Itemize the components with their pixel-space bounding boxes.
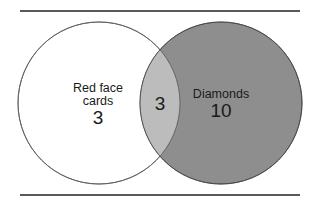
red-face-label-line2: cards (83, 95, 114, 108)
diamonds-only-count: 10 (210, 101, 231, 120)
intersection-count: 3 (155, 94, 166, 113)
red-face-label-line1: Red face (73, 82, 123, 95)
red-face-only-count: 3 (93, 108, 104, 127)
diamonds-label: Diamonds (193, 88, 249, 101)
